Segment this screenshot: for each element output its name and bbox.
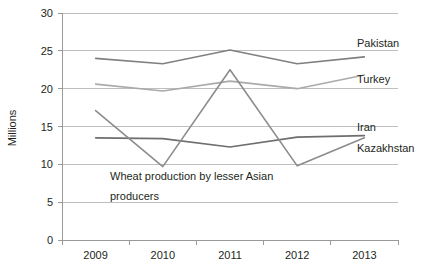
y-tick-label: 30 — [41, 7, 53, 19]
series-labels: PakistanTurkeyIranKazakhstan — [357, 37, 414, 154]
annotation-line-2: producers — [110, 190, 159, 202]
series-line-kazakhstan — [96, 70, 365, 167]
series-label-kazakhstan: Kazakhstan — [357, 142, 414, 154]
chart-container: 051015202530 20092010201120122013 Pakist… — [0, 0, 422, 269]
y-tick-label: 15 — [41, 121, 53, 133]
x-axis-tick-labels: 20092010201120122013 — [83, 249, 376, 261]
series-label-pakistan: Pakistan — [357, 37, 399, 49]
y-tick-label: 10 — [41, 158, 53, 170]
y-axis-title: Millions — [6, 109, 18, 146]
axis-ticks — [58, 13, 398, 245]
series-label-iran: Iran — [357, 121, 376, 133]
line-chart: 051015202530 20092010201120122013 Pakist… — [0, 0, 422, 269]
series-line-pakistan — [96, 50, 365, 64]
gridlines — [62, 13, 398, 240]
y-tick-label: 20 — [41, 83, 53, 95]
annotation-line-1: Wheat production by lesser Asian — [110, 170, 273, 182]
y-axis-tick-labels: 051015202530 — [41, 7, 53, 246]
x-tick-label: 2010 — [151, 249, 175, 261]
x-tick-label: 2012 — [285, 249, 309, 261]
x-tick-label: 2009 — [83, 249, 107, 261]
x-tick-label: 2013 — [352, 249, 376, 261]
x-tick-label: 2011 — [218, 249, 242, 261]
data-series — [96, 50, 365, 167]
y-tick-label: 5 — [47, 196, 53, 208]
y-tick-label: 25 — [41, 45, 53, 57]
y-tick-label: 0 — [47, 234, 53, 246]
series-label-turkey: Turkey — [357, 73, 391, 85]
